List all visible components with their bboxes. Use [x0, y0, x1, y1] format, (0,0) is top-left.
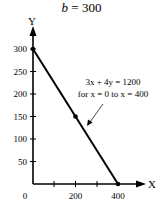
x-tick-0: 0 [23, 191, 28, 201]
y-tick-50: 50 [18, 157, 28, 167]
annotation-equation: 3x + 4y = 1200 [85, 77, 141, 87]
y-tick-150: 150 [14, 112, 28, 122]
point-200-150 [73, 114, 78, 119]
y-tick-200: 200 [14, 89, 28, 99]
y-tick-250: 250 [14, 67, 28, 77]
y-tick-300: 300 [14, 44, 28, 54]
x-tick-400: 400 [111, 191, 125, 201]
point-400-0 [116, 182, 121, 187]
x-tick-200: 200 [69, 191, 83, 201]
x-axis [33, 181, 146, 188]
annotation-arrow [87, 104, 103, 126]
chart-plot: 300 250 200 150 100 50 0 200 400 Y X 3x … [0, 0, 163, 203]
annotation-range: for x = 0 to x = 400 [78, 89, 149, 99]
point-0-300 [31, 47, 36, 52]
x-axis-label: X [148, 178, 156, 190]
y-axis-label: Y [28, 15, 36, 27]
y-tick-100: 100 [14, 134, 28, 144]
